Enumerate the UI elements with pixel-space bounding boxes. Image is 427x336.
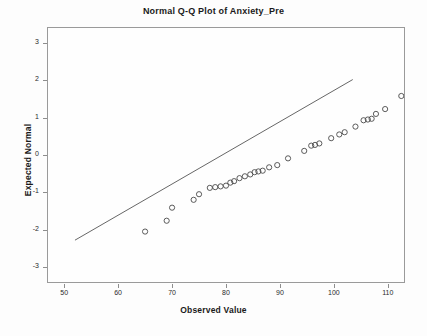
x-tick-label: 100 xyxy=(321,289,347,296)
data-point xyxy=(285,156,290,161)
y-tick-label: -2 xyxy=(17,225,39,232)
x-tick-mark xyxy=(118,284,119,288)
x-tick-label: 70 xyxy=(159,289,185,296)
data-point xyxy=(196,192,201,197)
x-tick-mark xyxy=(280,284,281,288)
x-tick-mark xyxy=(172,284,173,288)
x-tick-mark xyxy=(388,284,389,288)
data-point xyxy=(399,93,404,98)
y-tick-label: 1 xyxy=(17,113,39,120)
qq-plot-page: Normal Q-Q Plot of Anxiety_Pre Expected … xyxy=(0,0,427,336)
data-point xyxy=(191,197,196,202)
data-point xyxy=(337,132,342,137)
y-tick-label: 3 xyxy=(17,38,39,45)
x-tick-label: 80 xyxy=(213,289,239,296)
y-tick-label: -1 xyxy=(17,187,39,194)
y-axis-title: Expected Normal xyxy=(23,90,33,230)
data-point xyxy=(237,176,242,181)
y-tick-mark xyxy=(43,192,47,193)
data-point xyxy=(329,136,334,141)
x-tick-mark xyxy=(64,284,65,288)
data-point xyxy=(164,218,169,223)
y-tick-mark xyxy=(43,43,47,44)
y-tick-label: 2 xyxy=(17,75,39,82)
data-point xyxy=(302,148,307,153)
plot-area xyxy=(47,27,405,283)
x-tick-label: 90 xyxy=(267,289,293,296)
data-point xyxy=(275,162,280,167)
data-point xyxy=(383,106,388,111)
data-point xyxy=(267,165,272,170)
data-point xyxy=(353,124,358,129)
reference-line xyxy=(75,80,353,241)
data-point xyxy=(218,184,223,189)
data-points xyxy=(142,81,404,234)
y-tick-mark xyxy=(43,80,47,81)
y-tick-label: -3 xyxy=(17,262,39,269)
plot-canvas xyxy=(48,28,404,282)
y-tick-label: 0 xyxy=(17,150,39,157)
x-axis-title: Observed Value xyxy=(0,305,427,315)
x-tick-label: 110 xyxy=(375,289,401,296)
x-tick-mark xyxy=(334,284,335,288)
data-point xyxy=(342,130,347,135)
data-point xyxy=(207,185,212,190)
data-point xyxy=(169,205,174,210)
data-point xyxy=(142,229,147,234)
y-tick-mark xyxy=(43,267,47,268)
page-title: Normal Q-Q Plot of Anxiety_Pre xyxy=(0,6,427,16)
data-point xyxy=(213,185,218,190)
x-tick-label: 50 xyxy=(51,289,77,296)
y-tick-mark xyxy=(43,155,47,156)
data-point xyxy=(242,174,247,179)
y-tick-mark xyxy=(43,118,47,119)
data-point xyxy=(369,116,374,121)
data-point xyxy=(373,111,378,116)
x-tick-mark xyxy=(226,284,227,288)
y-tick-mark xyxy=(43,230,47,231)
x-tick-label: 60 xyxy=(105,289,131,296)
